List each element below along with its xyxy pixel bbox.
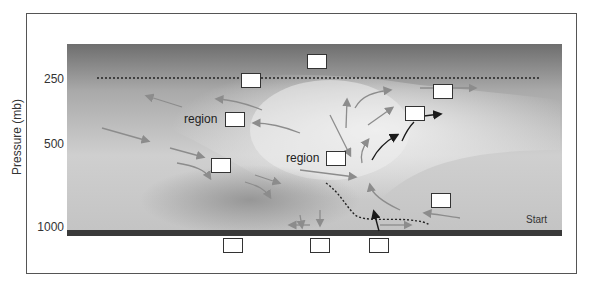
answer-box-region-upper[interactable]	[225, 112, 245, 127]
start-label: Start	[526, 214, 547, 225]
answer-box-region-middle[interactable]	[326, 151, 346, 166]
answer-box-below-surface-center[interactable]	[310, 238, 330, 253]
answer-box-left-mid-descent[interactable]	[211, 158, 231, 173]
y-tick-500: 500	[24, 137, 64, 151]
region-label-middle: region	[286, 151, 319, 165]
y-tick-250: 250	[24, 72, 64, 86]
answer-box-mid-right-outflow[interactable]	[405, 106, 425, 121]
y-tick-1000: 1000	[24, 220, 64, 234]
y-axis-label: Pressure (mb)	[10, 99, 24, 175]
answer-box-below-surface-left[interactable]	[223, 238, 243, 253]
answer-box-top-center[interactable]	[307, 54, 327, 69]
region-label-upper: region	[184, 112, 217, 126]
answer-box-lower-right[interactable]	[431, 193, 451, 208]
answer-box-upper-right[interactable]	[433, 84, 453, 99]
answer-box-below-surface-right[interactable]	[369, 238, 389, 253]
answer-box-tropopause-left[interactable]	[241, 73, 261, 88]
cross-section-graphic	[0, 0, 591, 294]
